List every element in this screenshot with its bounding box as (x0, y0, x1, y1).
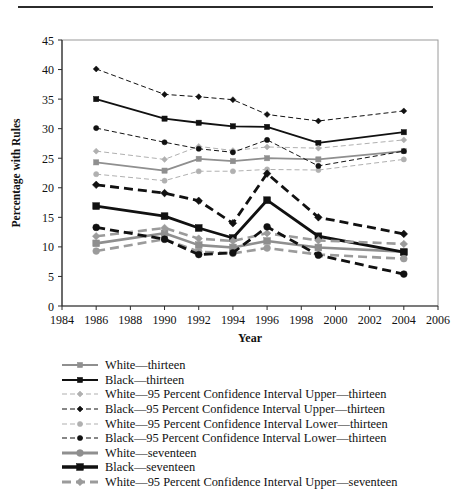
data-point-circle (93, 224, 100, 231)
legend-swatch (60, 373, 100, 387)
data-point-square (195, 225, 202, 232)
data-point-square (230, 124, 235, 129)
series-line (96, 151, 404, 171)
data-point-circle (400, 271, 407, 278)
data-point-diamond (264, 111, 270, 117)
x-tick-label: 2006 (426, 313, 450, 327)
legend-item[interactable]: Black—thirteen (0, 373, 451, 388)
data-point-circle (230, 150, 235, 155)
data-point-circle (264, 245, 271, 252)
x-tick-label: 1994 (221, 313, 245, 327)
legend-swatch (60, 475, 100, 489)
y-tick-label: 15 (42, 211, 54, 225)
data-point-square (264, 156, 269, 161)
x-tick-label: 1996 (255, 313, 279, 327)
data-point-circle (162, 178, 167, 183)
series-1 (94, 97, 407, 146)
series-line (96, 99, 404, 143)
data-point-square (264, 197, 271, 204)
y-tick-label: 35 (42, 93, 54, 107)
x-tick-label: 2002 (358, 313, 382, 327)
legend-key-icon (60, 358, 100, 372)
data-point-diamond (162, 156, 168, 162)
data-point-square (161, 213, 168, 220)
data-point-diamond (400, 230, 408, 238)
x-tick-label: 1992 (187, 313, 211, 327)
legend-item-label: Black—95 Percent Confidence Interval Low… (105, 431, 386, 445)
data-point-diamond (230, 97, 236, 103)
data-point-square (77, 377, 82, 382)
data-point-square (94, 160, 99, 165)
data-point-diamond (162, 91, 168, 97)
legend-swatch (60, 387, 100, 401)
chart-plot-area: 0510152025303540451984198619881990199219… (0, 14, 451, 344)
data-point-circle (400, 255, 407, 262)
data-point-circle (94, 172, 99, 177)
data-point-diamond (77, 391, 83, 397)
data-point-circle (196, 169, 201, 174)
legend-item-label: White—95 Percent Confidence Interval Low… (105, 417, 388, 431)
data-point-diamond (195, 197, 203, 205)
series-line (96, 174, 404, 234)
legend-key-icon (60, 417, 100, 431)
data-point-circle (77, 436, 82, 441)
chart-legend: White—thirteenBlack—thirteenWhite—95 Per… (0, 358, 451, 492)
x-tick-label: 1988 (118, 313, 142, 327)
legend-item[interactable]: White—95 Percent Confidence Interval Upp… (0, 387, 451, 402)
legend-item[interactable]: White—thirteen (0, 358, 451, 373)
series-line (96, 159, 404, 180)
data-point-diamond (264, 144, 270, 150)
legend-item[interactable]: Black—seventeen (0, 460, 451, 475)
data-point-circle (316, 163, 321, 168)
legend-item-label: White—thirteen (105, 358, 186, 372)
data-point-circle (401, 149, 406, 154)
line-chart: 0510152025303540451984198619881990199219… (0, 14, 451, 344)
data-point-square (196, 156, 201, 161)
data-point-diamond (401, 108, 407, 114)
data-point-square (264, 238, 271, 245)
legend-item[interactable]: White—seventeen (0, 446, 451, 461)
legend-item[interactable]: White—95 Percent Confidence Interval Low… (0, 416, 451, 431)
y-tick-label: 40 (42, 63, 54, 77)
legend-swatch (60, 358, 100, 372)
data-point-diamond (92, 181, 100, 189)
legend-key-icon (60, 402, 100, 416)
data-point-square (94, 97, 99, 102)
data-point-square (93, 203, 100, 210)
y-tick-label: 25 (42, 152, 54, 166)
data-point-circle (162, 140, 167, 145)
legend-item-label: White—95 Percent Confidence Interval Upp… (105, 475, 397, 489)
data-point-circle (230, 169, 235, 174)
y-axis-title: Percentage with Rules (10, 118, 23, 228)
data-point-square (93, 240, 100, 247)
legend-swatch (60, 402, 100, 416)
data-point-circle (315, 252, 322, 259)
data-point-square (162, 168, 167, 173)
x-axis-title: Year (238, 331, 263, 344)
data-point-circle (264, 137, 269, 142)
data-point-square (162, 116, 167, 121)
data-point-diamond (400, 240, 408, 248)
data-point-circle (94, 125, 99, 130)
legend-item[interactable]: Black—95 Percent Confidence Interval Upp… (0, 402, 451, 417)
data-point-circle (264, 223, 271, 230)
legend-swatch (60, 417, 100, 431)
x-tick-label: 1998 (289, 313, 313, 327)
legend-item-label: Black—95 Percent Confidence Interval Upp… (105, 402, 385, 416)
x-tick-label: 1984 (50, 313, 74, 327)
y-tick-label: 20 (42, 181, 54, 195)
figure: 0510152025303540451984198619881990199219… (0, 14, 451, 478)
data-point-diamond (196, 94, 202, 100)
data-point-circle (77, 421, 82, 426)
data-point-circle (161, 236, 168, 243)
legend-item[interactable]: White—95 Percent Confidence Interval Upp… (0, 475, 451, 490)
legend-key-icon (60, 387, 100, 401)
data-point-square (77, 363, 82, 368)
data-point-circle (196, 146, 201, 151)
data-point-circle (195, 251, 202, 258)
x-tick-label: 1990 (153, 313, 177, 327)
legend-key-icon (60, 373, 100, 387)
legend-item[interactable]: Black—95 Percent Confidence Interval Low… (0, 431, 451, 446)
y-tick-label: 0 (48, 300, 54, 314)
series-9 (92, 170, 407, 238)
